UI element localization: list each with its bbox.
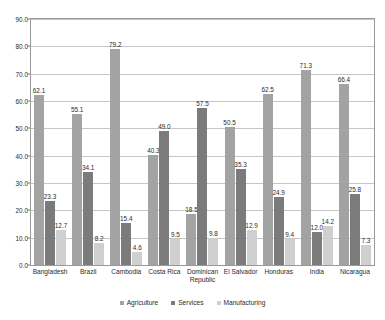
bar-slot: 57.5 [197,19,207,265]
bar-value-label: 34.1 [82,164,94,171]
x-axis-tick-label: Costa Rica [145,268,183,285]
legend-item[interactable]: Manufacturing [217,299,266,306]
bar-value-label: 12.0 [311,224,323,231]
bar-services[interactable]: 24.9 [274,197,284,265]
y-axis-tick-mark [27,73,30,74]
bar-agriculture[interactable]: 62.1 [34,95,44,265]
bar-value-label: 9.4 [285,231,294,238]
bar-manufacturing[interactable]: 14.2 [323,226,333,265]
bar-group: 71.312.014.2 [298,19,336,265]
y-axis-tick-label: 40.0 [2,152,28,159]
bar-manufacturing[interactable]: 8.2 [94,243,104,265]
x-axis-tick-label: Dominican Republic [183,268,221,285]
legend-item[interactable]: Agriculture [120,299,159,306]
y-axis-tick-mark [27,183,30,184]
legend-label: Manufacturing [224,299,266,306]
x-axis: BangladeshBrazilCambodiaCosta RicaDomini… [31,268,374,285]
bar-slot: 14.2 [323,19,333,265]
bar-slot: 4.6 [132,19,142,265]
bar-value-label: 62.5 [261,86,273,93]
bar-services[interactable]: 49.0 [159,131,169,265]
bar-services[interactable]: 15.4 [121,223,131,265]
bar-services[interactable]: 34.1 [83,172,93,265]
legend-swatch-icon [171,301,175,305]
y-axis-tick-mark [27,265,30,266]
bar-slot: 71.3 [301,19,311,265]
bar-slot: 40.3 [148,19,158,265]
bar-manufacturing[interactable]: 4.6 [132,252,142,265]
bar-agriculture[interactable]: 62.5 [263,94,273,265]
bar-value-label: 9.5 [171,231,180,238]
bar-value-label: 9.8 [209,230,218,237]
legend-label: Agriculture [127,299,159,306]
y-axis-tick-label: 90.0 [2,16,28,23]
bar-agriculture[interactable]: 40.3 [148,155,158,265]
bar-group: 62.524.99.4 [260,19,298,265]
bar-manufacturing[interactable]: 12.7 [56,230,66,265]
y-axis-tick-label: 30.0 [2,180,28,187]
bar-group: 79.215.44.6 [107,19,145,265]
x-axis-tick-label: Honduras [260,268,298,285]
bar-manufacturing[interactable]: 7.3 [361,245,371,265]
y-axis-tick-mark [27,101,30,102]
bar-services[interactable]: 57.5 [197,108,207,265]
x-axis-tick-label: Nicaragua [336,268,374,285]
bar-value-label: 55.1 [71,106,83,113]
bar-slot: 15.4 [121,19,131,265]
bar-slot: 12.9 [247,19,257,265]
bar-slot: 9.5 [170,19,180,265]
bar-agriculture[interactable]: 79.2 [110,49,120,265]
bar-manufacturing[interactable]: 9.4 [285,239,295,265]
bar-agriculture[interactable]: 50.5 [225,127,235,265]
bar-slot: 25.8 [350,19,360,265]
bar-value-label: 8.2 [95,235,104,242]
bar-value-label: 66.4 [338,76,350,83]
bar-services[interactable]: 23.3 [45,201,55,265]
bar-value-label: 24.9 [272,189,284,196]
bar-value-label: 40.3 [147,147,159,154]
bar-slot: 7.3 [361,19,371,265]
bar-value-label: 57.5 [196,100,208,107]
chart-legend: AgricultureServicesManufacturing [0,299,385,306]
bar-slot: 62.5 [263,19,273,265]
x-axis-tick-label: Brazil [69,268,107,285]
bar-slot: 12.7 [56,19,66,265]
legend-swatch-icon [217,301,221,305]
bar-services[interactable]: 35.3 [236,169,246,265]
bar-agriculture[interactable]: 18.5 [186,214,196,265]
y-axis-tick-mark [27,46,30,47]
bar-slot: 34.1 [83,19,93,265]
bar-slot: 8.2 [94,19,104,265]
bar-slot: 23.3 [45,19,55,265]
bar-value-label: 50.5 [223,119,235,126]
bar-agriculture[interactable]: 66.4 [339,84,349,265]
bar-value-label: 14.2 [322,218,334,225]
bar-manufacturing[interactable]: 12.9 [247,230,257,265]
bar-value-label: 18.5 [185,206,197,213]
bar-agriculture[interactable]: 71.3 [301,70,311,265]
x-axis-tick-label: Cambodia [107,268,145,285]
bar-manufacturing[interactable]: 9.8 [208,238,218,265]
bar-value-label: 12.7 [55,222,67,229]
bar-agriculture[interactable]: 55.1 [72,114,82,265]
bar-slot: 9.8 [208,19,218,265]
bar-chart: 0.010.020.030.040.050.060.070.080.090.0 … [0,0,385,320]
y-axis-tick-mark [27,155,30,156]
bar-value-label: 49.0 [158,123,170,130]
bar-slot: 9.4 [285,19,295,265]
bar-services[interactable]: 12.0 [312,232,322,265]
x-axis-tick-label: El Salvador [222,268,260,285]
y-axis-tick-label: 60.0 [2,98,28,105]
legend-item[interactable]: Services [171,299,203,306]
bar-group: 66.425.87.3 [336,19,374,265]
bar-slot: 18.5 [186,19,196,265]
bar-slot: 79.2 [110,19,120,265]
bar-services[interactable]: 25.8 [350,194,360,265]
bar-manufacturing[interactable]: 9.5 [170,239,180,265]
y-axis-tick-label: 0.0 [2,262,28,269]
bar-slot: 66.4 [339,19,349,265]
bar-groups: 62.123.312.755.134.18.279.215.44.640.349… [31,19,374,265]
y-axis-tick-mark [27,210,30,211]
bar-value-label: 35.3 [234,161,246,168]
bar-value-label: 79.2 [109,41,121,48]
